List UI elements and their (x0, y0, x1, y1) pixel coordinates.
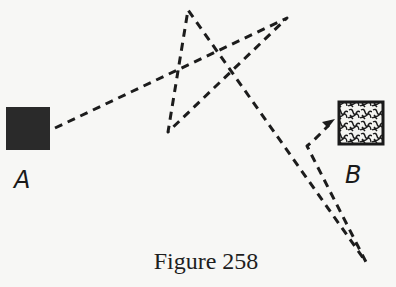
point-b-square (339, 102, 383, 144)
point-a-square (6, 107, 50, 150)
point-b-label: B (345, 163, 361, 187)
dashed-path (55, 10, 366, 262)
diagram-canvas (0, 0, 396, 287)
arrowhead-icon (322, 119, 335, 128)
point-a-label: A (14, 168, 30, 192)
figure-caption: Figure 258 (0, 248, 396, 275)
